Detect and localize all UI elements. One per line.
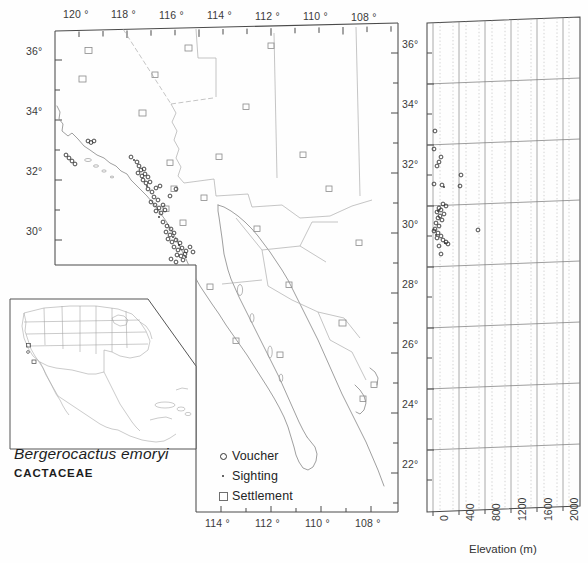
elevation-scatter-panel: 0 400 800 1200 1600 2000 Elevation (m) bbox=[408, 0, 588, 563]
legend-item-sighting: Sighting bbox=[214, 466, 293, 486]
elevation-axis-title: Elevation (m) bbox=[469, 543, 537, 555]
map-right-axis-ticks bbox=[391, 53, 398, 503]
map-left-tick-32: 32° bbox=[26, 165, 42, 177]
taxon-family-name: CACTACEAE bbox=[14, 467, 169, 479]
taxon-caption: Bergerocactus emoryi CACTACEAE bbox=[14, 445, 169, 479]
map-left-axis-ticks bbox=[55, 60, 62, 240]
map-left-tick-30: 30° bbox=[26, 225, 42, 237]
map-bottom-tick-108: 108 ° bbox=[355, 517, 381, 529]
map-bottom-tick-110: 110 ° bbox=[305, 517, 330, 529]
settlement-square-icon bbox=[214, 492, 232, 501]
legend-item-settlement: Settlement bbox=[214, 486, 293, 506]
elev-tick-2000: 2000 bbox=[568, 498, 580, 521]
map-bottom-axis-ticks bbox=[221, 506, 371, 512]
atlas-page: 120 ° 118 ° 116 ° 114 ° 112 ° 110 ° 108 … bbox=[0, 0, 588, 563]
inset-map bbox=[10, 299, 196, 449]
voucher-markers bbox=[64, 139, 195, 264]
legend-label-voucher: Voucher bbox=[232, 449, 279, 463]
map-top-axis-ticks bbox=[79, 26, 391, 38]
map-legend: Voucher Sighting Settlement bbox=[214, 446, 293, 506]
elev-tick-400: 400 bbox=[464, 503, 476, 521]
elev-tick-0: 0 bbox=[438, 515, 450, 521]
map-top-tick-108: 108 ° bbox=[351, 11, 377, 23]
map-top-tick-116: 116 ° bbox=[159, 9, 184, 21]
elevation-voucher-points bbox=[432, 129, 480, 256]
map-top-tick-120: 120 ° bbox=[63, 8, 89, 20]
map-top-tick-118: 118 ° bbox=[111, 8, 136, 20]
map-bottom-tick-112: 112 ° bbox=[255, 517, 280, 529]
voucher-circle-icon bbox=[214, 453, 232, 460]
elevation-scatter-plot bbox=[408, 0, 588, 563]
legend-label-sighting: Sighting bbox=[232, 469, 278, 483]
legend-item-voucher: Voucher bbox=[214, 446, 293, 466]
map-left-tick-34: 34° bbox=[26, 105, 42, 117]
map-top-tick-112: 112 ° bbox=[255, 10, 280, 22]
map-bottom-tick-114: 114 ° bbox=[205, 517, 230, 529]
elev-tick-1600: 1600 bbox=[542, 498, 554, 521]
taxon-scientific-name: Bergerocactus emoryi bbox=[14, 445, 169, 463]
sighting-dot-icon bbox=[214, 475, 232, 478]
elev-tick-1200: 1200 bbox=[516, 498, 528, 521]
map-top-tick-114: 114 ° bbox=[207, 9, 232, 21]
map-left-tick-36: 36° bbox=[26, 45, 42, 57]
elevation-sighting-points bbox=[435, 186, 446, 244]
legend-label-settlement: Settlement bbox=[232, 489, 293, 503]
elev-tick-800: 800 bbox=[490, 503, 502, 521]
map-top-tick-110: 110 ° bbox=[303, 10, 328, 22]
